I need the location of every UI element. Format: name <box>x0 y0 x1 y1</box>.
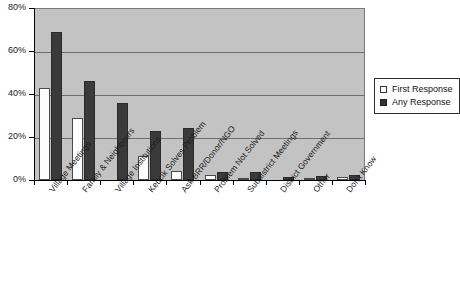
gridline-60 <box>34 52 364 53</box>
y-tick: 60% <box>29 51 34 52</box>
legend-entry-first-response: First Response <box>380 83 453 96</box>
bar-first-response <box>171 171 182 180</box>
x-tick-mark <box>34 181 35 185</box>
y-axis <box>34 8 35 181</box>
y-tick-mark <box>29 8 34 9</box>
open-square-icon <box>380 86 387 93</box>
filled-square-icon <box>380 99 387 106</box>
x-tick-mark <box>133 181 134 185</box>
legend-entry-any-response: Any Response <box>380 96 453 109</box>
x-tick-mark <box>200 181 201 185</box>
y-tick: 80% <box>29 8 34 9</box>
bar-any-response <box>84 81 95 180</box>
x-tick-mark <box>365 181 366 185</box>
y-tick-mark <box>29 137 34 138</box>
x-tick-mark <box>166 181 167 185</box>
legend-label: First Response <box>392 84 453 95</box>
chart-legend: First Response Any Response <box>374 78 460 114</box>
y-tick-mark <box>29 51 34 52</box>
x-tick-mark <box>332 181 333 185</box>
y-tick-label: 60% <box>8 45 26 56</box>
bar-any-response <box>51 32 62 180</box>
x-tick-mark <box>67 181 68 185</box>
y-tick-mark <box>29 94 34 95</box>
y-tick-label: 20% <box>8 131 26 142</box>
legend-label: Any Response <box>392 97 451 108</box>
bar-first-response <box>39 88 50 180</box>
x-tick-mark <box>100 181 101 185</box>
y-tick-label: 40% <box>8 88 26 99</box>
y-tick: 20% <box>29 137 34 138</box>
y-tick: 40% <box>29 94 34 95</box>
x-tick-mark <box>266 181 267 185</box>
y-tick-label: 0% <box>13 174 26 185</box>
x-tick-mark <box>299 181 300 185</box>
y-tick-label: 80% <box>8 2 26 13</box>
x-tick-mark <box>233 181 234 185</box>
